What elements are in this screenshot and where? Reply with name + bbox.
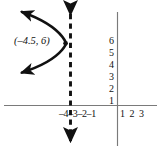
y-axis-tick-labels: 6 5 4 3 2 1 [101,36,114,106]
x-tick-label-neg4: –4 [59,109,68,119]
vertex-label: (–4.5, 6) [14,36,50,47]
x-tick-label-neg2: –2 [77,109,86,119]
y-tick-label-6: 6 [101,36,114,46]
graph-figure: (–4.5, 6) 6 5 4 3 2 1 –4 –3 –2 –1 1 2 3 [0,0,160,156]
x-tick-label-neg1: –1 [87,109,96,119]
y-tick-label-4: 4 [101,60,114,70]
x-axis-positive-tick-labels: 1 2 3 [120,109,144,119]
vertex-point-marker [63,41,68,46]
y-tick-label-2: 2 [101,84,114,94]
x-tick-label-3: 3 [139,109,144,119]
x-axis-negative-tick-labels: –4 –3 –2 –1 [59,109,96,119]
y-tick-label-5: 5 [101,48,114,58]
y-tick-label-3: 3 [101,72,114,82]
coordinate-plane-svg [0,0,160,156]
x-tick-label-2: 2 [130,109,135,119]
y-tick-label-1: 1 [101,96,114,106]
x-tick-label-1: 1 [120,109,125,119]
